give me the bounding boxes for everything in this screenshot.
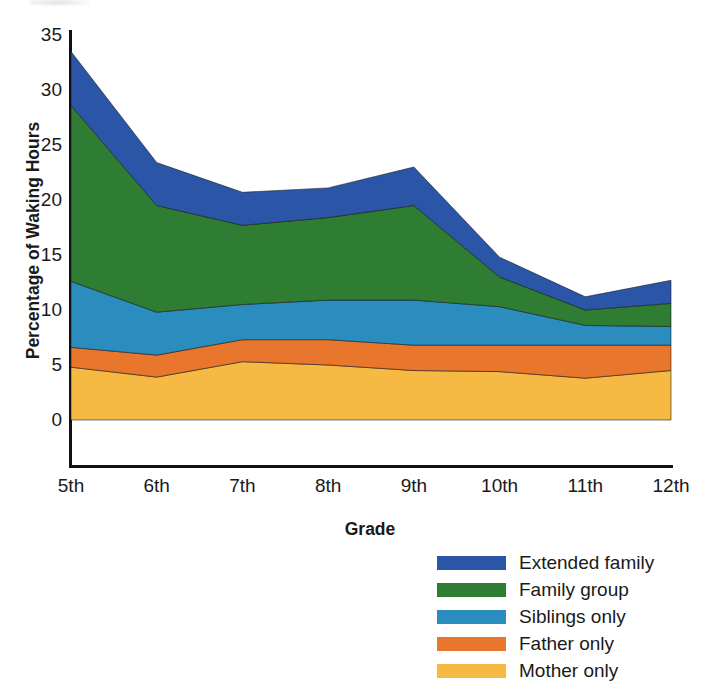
legend-label: Father only	[519, 634, 614, 654]
legend-item: Extended family	[437, 550, 705, 576]
x-tick-label-5th: 5th	[36, 476, 106, 496]
legend-item: Siblings only	[437, 604, 705, 630]
y-tick-label: 15	[16, 245, 62, 264]
legend-swatch-icon	[437, 637, 506, 651]
y-tick-label: 35	[16, 25, 62, 44]
x-tick-label-9th: 9th	[379, 476, 449, 496]
legend-swatch-icon	[437, 583, 506, 597]
legend-item: Mother only	[437, 658, 705, 684]
stacked-area-chart-figure: Percentage of Waking Hours 0510152025303…	[0, 0, 708, 691]
y-tick-label: 25	[16, 135, 62, 154]
x-tick-label-8th: 8th	[293, 476, 363, 496]
legend-swatch-icon	[437, 664, 506, 678]
x-tick-label-6th: 6th	[122, 476, 192, 496]
y-tick-label: 20	[16, 190, 62, 209]
x-tick-label-11th: 11th	[550, 476, 620, 496]
legend-swatch-icon	[437, 610, 506, 624]
area-series-svg	[70, 30, 672, 466]
y-tick-label: 30	[16, 80, 62, 99]
y-axis-tick-labels: 05101520253035	[0, 0, 62, 691]
x-tick-label-7th: 7th	[207, 476, 277, 496]
y-tick-label: 10	[16, 300, 62, 319]
legend-label: Extended family	[519, 553, 654, 573]
legend-label: Siblings only	[519, 607, 626, 627]
area-series-family-group	[71, 105, 671, 326]
legend-item: Father only	[437, 631, 705, 657]
x-axis-title: Grade	[68, 519, 672, 540]
plot-area	[70, 30, 672, 466]
legend-label: Family group	[519, 580, 629, 600]
y-tick-label: 5	[16, 355, 62, 374]
chart-legend: Extended familyFamily groupSiblings only…	[437, 550, 705, 685]
legend-item: Family group	[437, 577, 705, 603]
y-tick-label: 0	[16, 410, 62, 429]
x-tick-label-10th: 10th	[465, 476, 535, 496]
x-tick-label-12th: 12th	[636, 476, 706, 496]
legend-label: Mother only	[519, 661, 618, 681]
legend-swatch-icon	[437, 556, 506, 570]
